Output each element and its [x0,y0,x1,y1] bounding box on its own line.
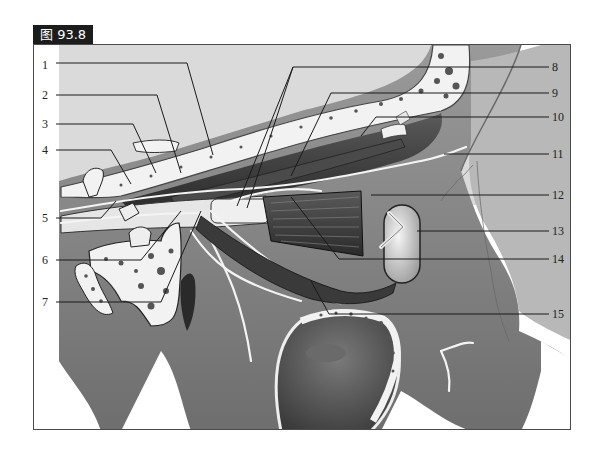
label-12: 12 [552,189,564,201]
label-6: 6 [42,254,48,266]
label-2: 2 [42,89,48,101]
label-13: 13 [552,225,564,237]
label-11: 11 [552,148,564,160]
eye-globe [384,205,420,283]
label-5: 5 [42,212,48,224]
orbit-anatomy-illustration [34,45,571,430]
label-3: 3 [42,118,48,130]
label-7: 7 [42,296,48,308]
label-8: 8 [552,61,558,73]
label-9: 9 [552,87,558,99]
label-4: 4 [42,144,48,156]
figure-frame: 1 2 3 4 5 6 7 8 9 10 11 12 13 14 15 [33,44,571,430]
label-15: 15 [552,308,564,320]
label-10: 10 [552,111,564,123]
figure-tag: 图 93.8 [33,25,93,44]
label-1: 1 [42,59,48,71]
label-14: 14 [552,253,564,265]
